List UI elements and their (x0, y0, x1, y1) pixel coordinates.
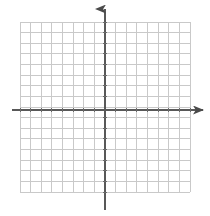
graph-canvas (0, 0, 210, 216)
coordinate-grid-figure (0, 0, 210, 216)
